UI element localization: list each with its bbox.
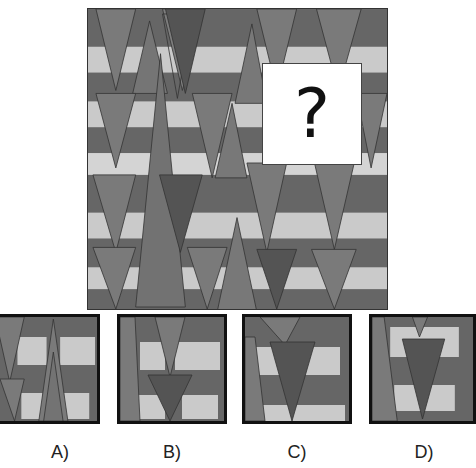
- question-mark: ?: [294, 80, 330, 148]
- option-d[interactable]: [369, 314, 476, 424]
- option-d-label: D): [404, 442, 444, 463]
- option-a-label: A): [40, 442, 80, 463]
- option-d-graphic: [372, 317, 473, 421]
- missing-piece-box: ?: [262, 63, 362, 165]
- option-c-graphic: [245, 317, 349, 421]
- option-b-label: B): [152, 442, 192, 463]
- option-c[interactable]: [242, 314, 352, 424]
- option-b[interactable]: [117, 314, 227, 424]
- option-c-label: C): [277, 442, 317, 463]
- option-b-graphic: [120, 317, 224, 421]
- option-a[interactable]: [0, 314, 100, 424]
- option-a-graphic: [0, 317, 97, 421]
